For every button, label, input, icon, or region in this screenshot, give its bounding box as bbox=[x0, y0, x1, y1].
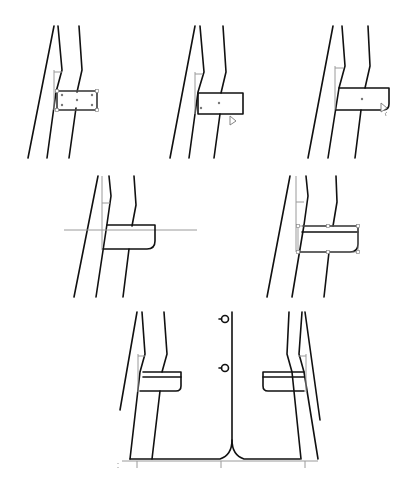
step-4-panel bbox=[64, 176, 197, 297]
pointer-cursor-icon bbox=[230, 116, 236, 125]
pocket-construction-diagram bbox=[0, 0, 417, 501]
step-3-panel bbox=[308, 26, 389, 158]
step-6-panel bbox=[118, 312, 320, 468]
selection-handles bbox=[297, 225, 360, 254]
step-5-panel bbox=[267, 176, 360, 297]
step-2-panel bbox=[170, 26, 243, 158]
step-1-panel bbox=[28, 26, 99, 158]
